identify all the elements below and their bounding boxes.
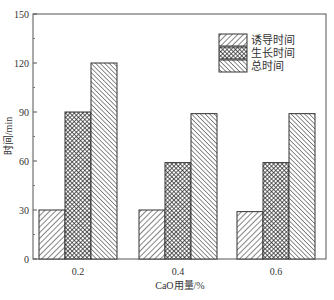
- y-tick-label: 90: [19, 107, 29, 118]
- bar-生长时间-0.2: [65, 112, 91, 259]
- bar-诱导时间-0.6: [237, 212, 263, 259]
- bar-生长时间-0.4: [165, 163, 191, 259]
- bars-group: [39, 63, 315, 259]
- x-tick-label: 0.4: [172, 266, 185, 277]
- y-axis: 0306090120150: [14, 9, 37, 265]
- legend-label-growth: 生长时间: [251, 46, 295, 60]
- y-tick-label: 120: [14, 58, 29, 69]
- legend-label-total: 总时间: [251, 59, 284, 73]
- bar-总时间-0.2: [91, 63, 117, 259]
- y-axis-title: 时间/min: [2, 117, 14, 155]
- bar-总时间-0.4: [191, 114, 217, 259]
- bar-总时间-0.6: [289, 114, 315, 259]
- bar-诱导时间-0.4: [139, 210, 165, 259]
- y-tick-label: 30: [19, 205, 29, 216]
- x-tick-label: 0.6: [270, 266, 283, 277]
- legend-swatch-induction: [219, 34, 247, 46]
- legend-swatch-total: [219, 60, 247, 72]
- x-axis-title: CaO用量/%: [155, 280, 204, 291]
- x-tick-label: 0.2: [72, 266, 85, 277]
- legend-label-induction: 诱导时间: [251, 34, 295, 47]
- y-tick-label: 60: [19, 156, 29, 167]
- legend-swatch-growth: [219, 47, 247, 59]
- legend: 诱导时间 生长时间 总时间: [219, 34, 295, 73]
- bar-chart: 0306090120150 0.20.40.6 CaO用量/% 时间/min 诱…: [0, 0, 334, 300]
- bar-生长时间-0.6: [263, 163, 289, 259]
- y-tick-label: 150: [14, 9, 29, 20]
- bar-诱导时间-0.2: [39, 210, 65, 259]
- y-tick-label: 0: [24, 254, 29, 265]
- x-axis: 0.20.40.6: [72, 266, 283, 277]
